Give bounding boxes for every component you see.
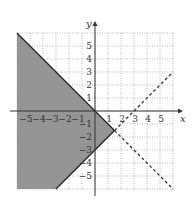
x-tick-label: 2 <box>119 114 125 124</box>
y-tick-label: 5 <box>86 41 92 51</box>
y-tick-label: −4 <box>79 158 93 168</box>
boundary-line-dashed <box>115 131 174 190</box>
x-tick-label: 4 <box>145 114 151 124</box>
y-tick-label: 4 <box>86 54 92 64</box>
inequality-graph: xy−5−4−3−2−11234554321−1−2−3−4−5 <box>0 0 194 203</box>
y-axis-arrow-icon <box>93 21 98 26</box>
y-axis-label: y <box>85 18 92 29</box>
x-tick-label: −2 <box>58 114 71 124</box>
x-tick-label: −3 <box>45 114 59 124</box>
y-tick-label: 2 <box>86 80 92 90</box>
y-tick-label: −1 <box>79 119 92 129</box>
x-axis-label: x <box>180 113 186 124</box>
y-tick-label: −5 <box>79 171 93 181</box>
x-tick-label: −4 <box>32 114 46 124</box>
y-tick-label: −2 <box>79 132 92 142</box>
y-tick-label: 1 <box>86 93 92 103</box>
x-tick-label: −5 <box>19 114 33 124</box>
y-tick-label: −3 <box>79 145 93 155</box>
x-tick-label: 5 <box>158 114 164 124</box>
x-tick-label: 3 <box>132 114 138 124</box>
x-tick-label: 1 <box>106 114 112 124</box>
y-tick-label: 3 <box>86 67 92 77</box>
